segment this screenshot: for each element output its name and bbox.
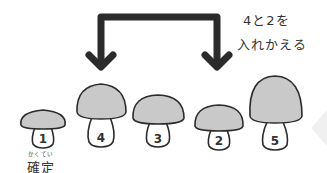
mushroom-label: 3 [154, 132, 162, 146]
page-corner-shadow [311, 110, 327, 146]
swap-arrow [89, 17, 229, 67]
mushroom-2: 2 [195, 105, 243, 150]
mushroom-label: 5 [271, 134, 279, 148]
mushroom-1: 1 [21, 110, 65, 148]
mushroom-cap [77, 84, 126, 119]
mushroom-3: 3 [133, 95, 184, 147]
mushroom-label: 4 [97, 131, 105, 145]
mushroom-cap [21, 110, 65, 129]
mushroom-label: 1 [39, 132, 47, 146]
mushroom-5: 5 [250, 76, 302, 150]
mushroom-label: 2 [215, 134, 223, 148]
confirmed-label: 確定 [27, 157, 54, 173]
mushroom-cap [133, 95, 184, 124]
swap-arrow-bracket [101, 17, 217, 66]
instruction-line-2: 入れかえる [237, 36, 307, 53]
mushroom-cap [195, 105, 243, 131]
mushroom-cap [250, 76, 302, 123]
diagram: 1 4 3 2 5 4と2を 入れかえる かくてい 確定 [0, 0, 327, 173]
mushroom-4: 4 [77, 84, 126, 147]
instruction-line-1: 4と2を [243, 12, 290, 29]
